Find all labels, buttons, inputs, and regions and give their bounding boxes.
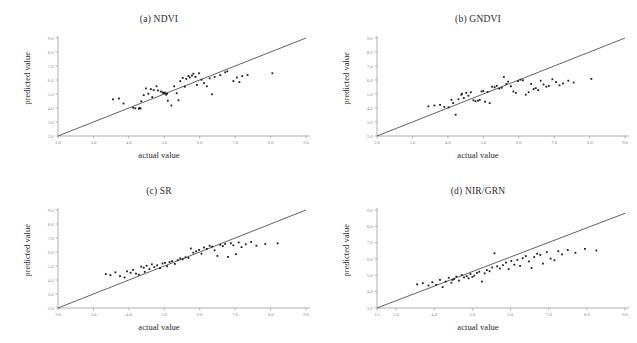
svg-text:9.0: 9.0 xyxy=(303,140,309,145)
panel-b-svg: 2.03.04.05.06.07.08.09.02.03.04.05.06.07… xyxy=(319,0,637,171)
svg-text:3.0: 3.0 xyxy=(91,140,97,145)
panel-d-ylabel: predicted value xyxy=(341,224,351,277)
svg-text:4.0: 4.0 xyxy=(445,140,451,145)
svg-text:9.0: 9.0 xyxy=(303,312,309,317)
svg-text:8.0: 8.0 xyxy=(48,50,54,55)
svg-text:7.0: 7.0 xyxy=(551,140,557,145)
svg-text:3.0: 3.0 xyxy=(393,312,399,317)
svg-text:6.0: 6.0 xyxy=(508,312,514,317)
panel-c: (c) SR 2.03.04.05.06.07.08.09.02.03.04.0… xyxy=(0,172,318,343)
svg-text:3.0: 3.0 xyxy=(48,120,54,125)
svg-text:4.0: 4.0 xyxy=(367,106,373,111)
svg-text:3.0: 3.0 xyxy=(367,306,373,311)
panel-b-ylabel: predicted value xyxy=(341,52,351,105)
panel-c-svg: 2.03.04.05.06.07.08.09.02.03.04.05.06.07… xyxy=(0,172,318,343)
svg-text:5.0: 5.0 xyxy=(367,273,373,278)
svg-text:6.0: 6.0 xyxy=(367,257,373,262)
panel-d-xlabel: actual value xyxy=(319,322,637,332)
svg-text:7.0: 7.0 xyxy=(232,140,238,145)
svg-text:7.0: 7.0 xyxy=(546,312,552,317)
svg-text:9.0: 9.0 xyxy=(622,312,628,317)
svg-text:6.0: 6.0 xyxy=(516,140,522,145)
panel-c-ylabel: predicted value xyxy=(22,224,32,277)
panel-a-ylabel: predicted value xyxy=(22,52,32,105)
svg-text:5.0: 5.0 xyxy=(161,312,167,317)
svg-text:2.0: 2.0 xyxy=(55,312,61,317)
svg-text:4.0: 4.0 xyxy=(48,106,54,111)
panel-b: (b) GNDVI 2.03.04.05.06.07.08.09.02.03.0… xyxy=(319,0,637,171)
svg-text:4.0: 4.0 xyxy=(126,312,132,317)
svg-text:8.0: 8.0 xyxy=(268,140,274,145)
panel-d-plot: 3.04.05.06.07.08.09.02.53.04.05.06.07.08… xyxy=(319,172,637,343)
panel-d-svg: 3.04.05.06.07.08.09.02.53.04.05.06.07.08… xyxy=(319,172,637,343)
svg-text:3.0: 3.0 xyxy=(410,140,416,145)
svg-text:5.0: 5.0 xyxy=(161,140,167,145)
svg-text:4.0: 4.0 xyxy=(431,312,437,317)
svg-text:9.0: 9.0 xyxy=(48,208,54,213)
svg-text:3.0: 3.0 xyxy=(367,120,373,125)
svg-text:5.0: 5.0 xyxy=(367,92,373,97)
svg-text:2.0: 2.0 xyxy=(367,134,373,139)
panel-a-xlabel: actual value xyxy=(0,150,318,160)
svg-text:8.0: 8.0 xyxy=(367,50,373,55)
svg-text:7.0: 7.0 xyxy=(48,236,54,241)
svg-text:3.0: 3.0 xyxy=(91,312,97,317)
svg-text:9.0: 9.0 xyxy=(622,140,628,145)
panel-c-plot: 2.03.04.05.06.07.08.09.02.03.04.05.06.07… xyxy=(0,172,318,343)
svg-text:7.0: 7.0 xyxy=(232,312,238,317)
svg-text:6.0: 6.0 xyxy=(197,140,203,145)
panel-a-plot: 2.03.04.05.06.07.08.09.02.03.04.05.06.07… xyxy=(0,0,318,171)
svg-text:5.0: 5.0 xyxy=(48,264,54,269)
svg-text:4.0: 4.0 xyxy=(126,140,132,145)
panel-a-svg: 2.03.04.05.06.07.08.09.02.03.04.05.06.07… xyxy=(0,0,318,171)
svg-text:9.0: 9.0 xyxy=(48,36,54,41)
svg-text:2.0: 2.0 xyxy=(55,140,61,145)
svg-text:2.0: 2.0 xyxy=(48,306,54,311)
svg-text:5.0: 5.0 xyxy=(470,312,476,317)
svg-text:6.0: 6.0 xyxy=(367,78,373,83)
svg-text:6.0: 6.0 xyxy=(48,250,54,255)
panel-b-plot: 2.03.04.05.06.07.08.09.02.03.04.05.06.07… xyxy=(319,0,637,171)
svg-text:7.0: 7.0 xyxy=(367,64,373,69)
svg-text:9.0: 9.0 xyxy=(367,36,373,41)
svg-text:7.0: 7.0 xyxy=(367,240,373,245)
svg-text:5.0: 5.0 xyxy=(480,140,486,145)
svg-text:2.5: 2.5 xyxy=(374,312,380,317)
svg-text:8.0: 8.0 xyxy=(268,312,274,317)
svg-text:6.0: 6.0 xyxy=(197,312,203,317)
panel-a: (a) NDVI 2.03.04.05.06.07.08.09.02.03.04… xyxy=(0,0,318,171)
svg-text:2.0: 2.0 xyxy=(374,140,380,145)
svg-text:3.0: 3.0 xyxy=(48,292,54,297)
svg-text:6.0: 6.0 xyxy=(48,78,54,83)
svg-text:8.0: 8.0 xyxy=(48,222,54,227)
svg-text:8.0: 8.0 xyxy=(367,224,373,229)
svg-text:4.0: 4.0 xyxy=(367,289,373,294)
svg-text:8.0: 8.0 xyxy=(587,140,593,145)
panel-b-xlabel: actual value xyxy=(319,150,637,160)
svg-text:7.0: 7.0 xyxy=(48,64,54,69)
svg-text:8.0: 8.0 xyxy=(584,312,590,317)
panel-d: (d) NIR/GRN 3.04.05.06.07.08.09.02.53.04… xyxy=(319,172,637,343)
svg-text:5.0: 5.0 xyxy=(48,92,54,97)
svg-text:9.0: 9.0 xyxy=(367,208,373,213)
panel-c-xlabel: actual value xyxy=(0,322,318,332)
figure-scatter-grid: (a) NDVI 2.03.04.05.06.07.08.09.02.03.04… xyxy=(0,0,637,343)
svg-text:4.0: 4.0 xyxy=(48,278,54,283)
svg-text:2.0: 2.0 xyxy=(48,134,54,139)
